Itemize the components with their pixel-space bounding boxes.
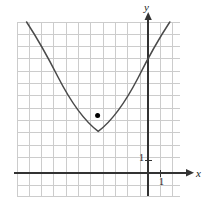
marked-point bbox=[95, 113, 100, 118]
x-axis-unit-label: 1 bbox=[159, 177, 164, 187]
coordinate-plane bbox=[0, 0, 207, 205]
x-axis-arrow-icon bbox=[186, 169, 194, 177]
y-axis-label: y bbox=[144, 2, 149, 13]
grid-lines bbox=[17, 22, 180, 196]
y-axis-unit-label: 1 bbox=[139, 153, 144, 163]
x-axis-label: x bbox=[196, 168, 201, 179]
y-axis-arrow-icon bbox=[145, 12, 152, 20]
graph-figure: y x 1 1 bbox=[0, 0, 207, 205]
